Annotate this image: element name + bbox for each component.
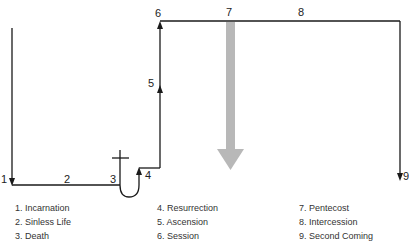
legend-column-2: 4. Resurrection 5. Ascension 6. Session: [157, 201, 218, 242]
legend-item: 1. Incarnation: [15, 201, 71, 215]
legend-item: 2. Sinless Life: [15, 215, 71, 229]
marker-6: 6: [155, 7, 161, 19]
pentecost-arrow: [217, 22, 244, 170]
arrowhead-5-icon: [157, 85, 163, 93]
legend-item: 9. Second Coming: [299, 229, 373, 242]
legend-item: 8. Intercession: [299, 215, 373, 229]
legend-item: 5. Ascension: [157, 215, 218, 229]
legend-column-3: 7. Pentecost 8. Intercession 9. Second C…: [299, 201, 373, 242]
marker-3: 3: [110, 173, 116, 185]
legend-item: 3. Death: [15, 229, 71, 242]
marker-7: 7: [226, 6, 232, 18]
marker-5: 5: [148, 77, 154, 89]
death-resurrection-curve: [120, 174, 139, 197]
arrowhead-6-icon: [157, 21, 163, 29]
marker-1: 1: [1, 173, 7, 185]
marker-8: 8: [298, 6, 304, 18]
legend-item: 4. Resurrection: [157, 201, 218, 215]
marker-9: 9: [403, 170, 409, 182]
marker-4: 4: [145, 169, 151, 181]
legend-item: 6. Session: [157, 229, 218, 242]
legend-column-1: 1. Incarnation 2. Sinless Life 3. Death: [15, 201, 71, 242]
marker-2: 2: [64, 173, 70, 185]
legend-item: 7. Pentecost: [299, 201, 373, 215]
